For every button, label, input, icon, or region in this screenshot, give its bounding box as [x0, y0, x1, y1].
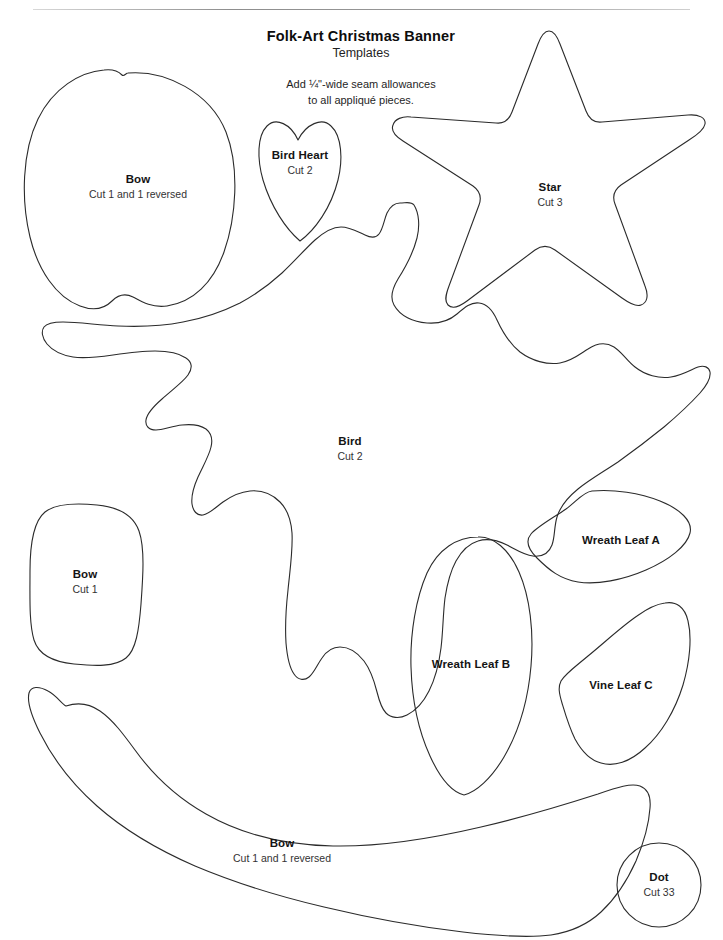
shape-bird-heart: [259, 122, 341, 241]
shape-bird: [42, 203, 710, 718]
shape-vine-leaf-c: [559, 603, 690, 765]
shape-wreath-leaf-b: [411, 537, 532, 795]
shape-bow-bottom: [28, 687, 650, 936]
title-block: Folk-Art Christmas Banner Templates Add …: [231, 28, 491, 108]
seam-allowance-note: Add ¼"-wide seam allowances to all appli…: [231, 77, 491, 108]
shape-wreath-leaf-a: [528, 490, 691, 582]
page-title: Folk-Art Christmas Banner: [231, 28, 491, 44]
note-line-1: Add ¼"-wide seam allowances: [231, 77, 491, 93]
template-outlines: [0, 0, 723, 940]
pattern-sheet: Folk-Art Christmas Banner Templates Add …: [0, 0, 723, 940]
note-line-2: to all appliqué pieces.: [231, 93, 491, 109]
shape-dot: [617, 843, 701, 927]
page-subtitle: Templates: [231, 46, 491, 60]
shape-bow-top-left: [24, 70, 235, 309]
shape-bow-middle-left: [30, 504, 143, 665]
